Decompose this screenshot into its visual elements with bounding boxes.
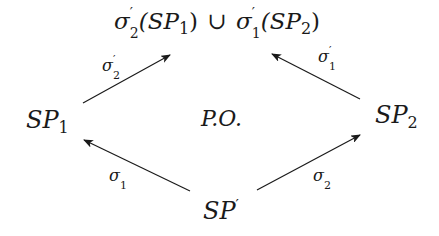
prime-mark: ′ [329, 45, 332, 56]
sigma-symbol: σ ′ 1 [318, 49, 329, 65]
argument-open: (SP [261, 8, 301, 34]
node-label: SP [203, 197, 236, 225]
sigma-glyph: σ [318, 47, 329, 66]
node-subscript: 1 [59, 118, 69, 137]
prime-mark: ′ [252, 6, 255, 20]
arrow-sigma1-prime [272, 54, 360, 99]
argument-close: ) [189, 8, 198, 34]
sigma-symbol: σ ′ 2 [102, 58, 113, 74]
argument-subscript: 1 [179, 19, 189, 38]
argument-close: ) [311, 8, 320, 34]
sigma-glyph: σ [313, 166, 324, 185]
prime-mark: ′ [236, 196, 239, 214]
sigma-glyph: σ [236, 8, 252, 34]
subscript: 2 [324, 180, 331, 191]
union-symbol: ∪ [207, 8, 226, 34]
edge-label-sigma2: σ 2 [313, 168, 324, 184]
prime-mark: ′ [130, 6, 133, 20]
node-top-union: σ ′ 2 (SP1) ∪ σ ′ 1 (SP2) [114, 10, 320, 33]
node-sp1: SP1 [26, 108, 69, 132]
edge-label-sigma1: σ 1 [109, 168, 120, 184]
sigma1-prime-symbol: σ ′ 1 [236, 10, 252, 33]
node-label: SP [26, 106, 59, 134]
arrow-sigma2-prime [83, 55, 170, 103]
arrow-sigma2 [257, 135, 360, 190]
subscript: 2 [130, 26, 139, 40]
subscript: 1 [252, 26, 261, 40]
sigma-glyph: σ [114, 8, 130, 34]
subscript: 1 [329, 61, 336, 72]
node-label: SP [375, 101, 408, 129]
sigma-glyph: σ [102, 56, 113, 75]
sigma2-prime-symbol: σ ′ 2 [114, 10, 130, 33]
sigma-symbol: σ 1 [109, 168, 120, 184]
node-sp2: SP2 [375, 103, 418, 127]
edge-label-sigma1-prime: σ ′ 1 [318, 49, 329, 65]
argument-open: (SP [139, 8, 179, 34]
subscript: 2 [113, 70, 120, 81]
subscript: 1 [120, 180, 127, 191]
edge-label-sigma2-prime: σ ′ 2 [102, 58, 113, 74]
argument-subscript: 2 [301, 19, 311, 38]
arrow-sigma1 [84, 140, 190, 191]
node-subscript: 2 [408, 113, 418, 132]
prime-mark: ′ [113, 54, 116, 65]
pushout-label: P.O. [201, 108, 242, 130]
pushout-diagram: σ ′ 2 (SP1) ∪ σ ′ 1 (SP2) SP1 SP2 SP′ P.… [0, 0, 439, 236]
sigma-symbol: σ 2 [313, 168, 324, 184]
sigma-glyph: σ [109, 166, 120, 185]
node-sp-prime: SP′ [203, 199, 239, 223]
